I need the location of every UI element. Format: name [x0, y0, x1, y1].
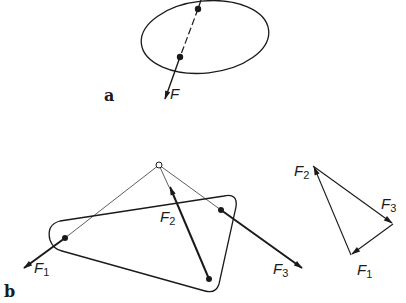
force-label-f: F: [170, 86, 179, 101]
diagram-canvas: [0, 0, 406, 303]
force-label-f2: F2: [160, 209, 175, 227]
force-symbol: F: [170, 85, 179, 102]
point-upper: [195, 6, 201, 12]
force-label-f3: F3: [273, 261, 288, 279]
force-diagram-figure: a b F F1 F2 F3 F2 F3 F1: [0, 0, 406, 303]
construction-line-1: [65, 165, 159, 238]
force-subscript: 1: [43, 266, 49, 278]
triangle-label-f2: F2: [294, 163, 309, 181]
force-subscript: 1: [366, 268, 372, 280]
panel-label-a: a: [104, 88, 114, 104]
rigid-body-ellipse: [138, 0, 273, 79]
force-subscript: 2: [169, 215, 175, 227]
force-arrow-f3: [221, 210, 302, 268]
panel-label-b: b: [4, 284, 15, 300]
force-symbol: F: [273, 260, 282, 277]
construction-line-3: [159, 165, 221, 210]
force-label-f1: F1: [34, 260, 49, 278]
force-symbol: F: [381, 195, 390, 212]
point-lower: [177, 54, 183, 60]
panel-a: [138, 0, 273, 99]
force-subscript: 3: [390, 202, 396, 214]
force-symbol: F: [160, 208, 169, 225]
force-subscript: 3: [282, 267, 288, 279]
force-subscript: 2: [303, 169, 309, 181]
force-symbol: F: [34, 259, 43, 276]
force-symbol: F: [357, 261, 366, 278]
application-point-1: [62, 235, 68, 241]
intersection-point: [156, 162, 162, 168]
triangle-label-f1: F1: [357, 262, 372, 280]
application-point-2: [206, 276, 212, 282]
triangle-side-f1: [352, 224, 393, 254]
force-symbol: F: [294, 162, 303, 179]
line-of-action-dashed: [180, 9, 198, 57]
triangle-label-f3: F3: [381, 196, 396, 214]
application-point-3: [218, 207, 224, 213]
